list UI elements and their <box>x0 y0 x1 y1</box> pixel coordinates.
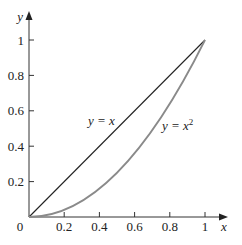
x-tick-label: 0.6 <box>126 219 143 234</box>
y-tick-label: 0.4 <box>8 139 25 154</box>
y-ticks <box>29 40 34 182</box>
x-axis-label: x <box>220 219 227 234</box>
x-tick-label: 0.2 <box>56 219 72 234</box>
x-ticks <box>64 212 205 217</box>
origin-label: 0 <box>17 219 24 234</box>
x-tick-label: 0.4 <box>91 219 108 234</box>
line-label: y = x <box>86 113 115 128</box>
y-tick-label: 0.6 <box>8 103 25 118</box>
x-tick-label: 1 <box>202 219 209 234</box>
chart: 0 0.2 0.4 0.6 0.8 1 x 0.2 0.4 0.6 0.8 1 … <box>0 0 242 245</box>
y-axis <box>26 11 33 217</box>
parabola-label: y = x2 <box>160 117 193 133</box>
x-tick-label: 0.8 <box>162 219 178 234</box>
y-axis-label: y <box>15 9 23 24</box>
y-tick-label: 1 <box>18 33 25 48</box>
y-tick-label: 0.2 <box>8 174 24 189</box>
y-tick-label: 0.8 <box>8 68 24 83</box>
y-axis-arrow-icon <box>26 11 33 20</box>
